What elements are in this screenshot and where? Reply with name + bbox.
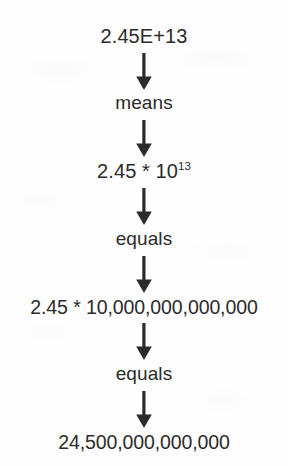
down-arrow-icon-2: [133, 120, 155, 157]
node-connector-equals-2: equals: [116, 364, 173, 384]
node-connector-means-1: means: [115, 93, 173, 113]
node-final-value: 24,500,000,000,000: [58, 432, 230, 452]
scientific-notation-flow-diagram: 2.45E+13 means 2.45 * 1013 equals 2.45 *…: [0, 0, 288, 466]
down-arrow-icon-1: [133, 53, 155, 90]
node-connector-equals-1: equals: [116, 229, 173, 249]
power-exponent: 13: [178, 159, 191, 172]
node-power-of-ten: 2.45 * 1013: [97, 161, 191, 182]
node-expanded-multiplication: 2.45 * 10,000,000,000,000: [30, 297, 257, 317]
down-arrow-icon-4: [133, 256, 155, 293]
down-arrow-icon-3: [133, 188, 155, 225]
down-arrow-icon-6: [133, 391, 155, 428]
down-arrow-icon-5: [133, 323, 155, 360]
power-base: 2.45 * 10: [97, 160, 178, 182]
node-exponential-notation: 2.45E+13: [101, 26, 188, 47]
